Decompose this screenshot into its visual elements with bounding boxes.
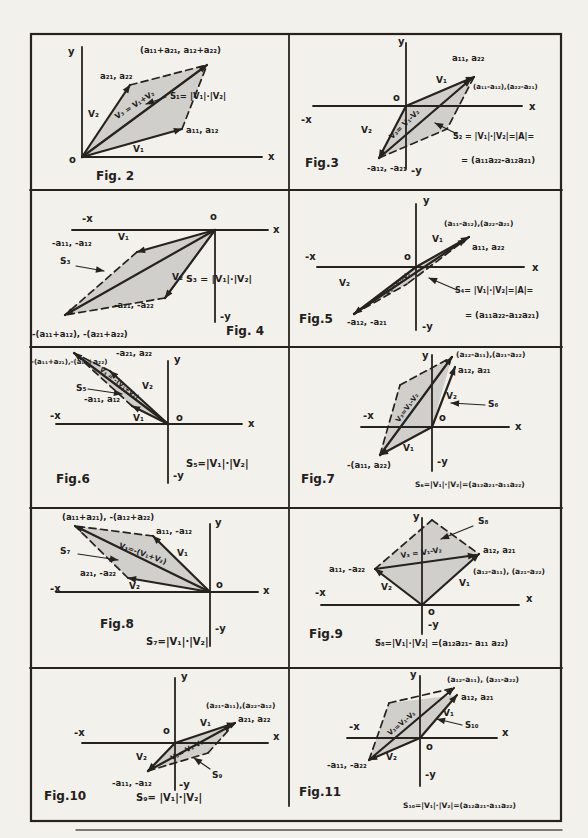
formula: = (a₁₁a₂₂-a₁₂a₂₁): [461, 155, 535, 165]
area-label: S₁₀: [465, 720, 479, 730]
axis-label: x: [263, 585, 270, 596]
axis-label: y: [398, 36, 405, 47]
vector-label: V₁: [432, 234, 443, 244]
formula: S₇=|V₁|·|V₂|: [146, 636, 209, 648]
vector-label: V₁: [436, 75, 447, 85]
point-label: a₂₁, a₂₂: [238, 714, 271, 724]
vector-label: V₂: [142, 381, 153, 391]
caption: Fig. 4: [226, 324, 264, 338]
vector-label: V₂: [446, 391, 457, 401]
point-label: -(a₁₁+a₂₁),-(a₁₂+a₂₂): [31, 358, 107, 366]
axis-label: o: [69, 154, 76, 165]
axis-label: x: [273, 731, 280, 742]
vector-label: V₁: [133, 413, 144, 423]
point-label: (a₁₁-a₁₂),(a₂₂-a₂₁): [444, 219, 513, 228]
point-label: a₂₁, -a₂₂: [80, 568, 116, 578]
vector-label: V₂: [386, 752, 397, 762]
axis-label: o: [210, 211, 217, 222]
formula: S₆=|V₁|·|V₂|=(a₁₂a₂₁-a₁₁a₂₂): [415, 480, 525, 489]
axis-label: o: [163, 725, 170, 736]
point-label: -a₁₁, -a₁₂: [112, 778, 152, 788]
caption: Fig.3: [305, 156, 339, 170]
axis-label: -x: [74, 727, 85, 738]
axis-label: -y: [428, 619, 439, 630]
axis-label: y: [410, 669, 417, 680]
figure-page-canvas: yxo(a₁₁+a₂₁, a₁₂+a₂₂)a₂₁, a₂₂V₂V₃ = V₁+V…: [0, 0, 588, 838]
point-label: a₁₁, a₂₂: [452, 53, 485, 63]
axis-label: -y: [179, 779, 190, 790]
axis-label: -y: [422, 321, 433, 332]
axis-label: y: [413, 511, 420, 522]
axis-label: x: [273, 224, 280, 235]
caption: Fig.10: [44, 789, 86, 803]
annotation-arrow: [429, 278, 457, 290]
fig-9: yx-x-yoS₈V₃ = V₁-V₂a₁₂, a₂₁(a₁₂-a₁₁), (a…: [309, 511, 545, 648]
axis-label: o: [426, 741, 433, 752]
vector-label: V₁: [200, 718, 211, 728]
fig-11: yx-x-yo(a₁₂-a₁₁), (a₂₁-a₂₂)a₁₂, a₂₁V₁V₃=…: [299, 669, 519, 810]
point-label: a₁₂, a₂₁: [458, 365, 491, 375]
formula: S₅=|V₁|·|V₂|: [186, 458, 249, 470]
formula: = (a₁₁a₂₂-a₁₂a₂₁): [465, 310, 539, 320]
axis-label: o: [176, 412, 183, 423]
fig-6: yx-x-yo-(a₁₁+a₂₁),-(a₁₂+a₂₂)-a₂₁, a₂₂V₂V…: [31, 348, 255, 486]
axis-label: x: [529, 101, 536, 112]
caption: Fig.8: [100, 617, 134, 631]
point-label: a₁₁, -a₂₂: [329, 564, 365, 574]
axis-label: y: [422, 350, 429, 361]
point-label: (a₁₁+a₂₁, a₁₂+a₂₂): [140, 45, 221, 55]
point-label: (a₁₂-a₁₁), (a₂₁-a₂₂): [447, 675, 519, 684]
point-label: -a₁₂, -a₂₁: [367, 163, 407, 173]
formula: S₉= |V₁|·|V₂|: [136, 792, 202, 804]
caption: Fig.6: [56, 472, 90, 486]
axis-label: x: [515, 421, 522, 432]
point-label: -(a₁₁, a₂₂): [347, 460, 391, 470]
formula: S₂ = |V₁|·|V₂|=|A|=: [453, 132, 534, 141]
axis-label: x: [532, 262, 539, 273]
point-label: (a₂₁-a₁₁),(a₂₂-a₁₂): [206, 701, 275, 710]
axis-label: o: [439, 412, 446, 423]
axis-label: -y: [411, 165, 422, 176]
annotation-arrow: [437, 719, 462, 725]
point-label: -a₁₁, a₁₂: [84, 394, 120, 404]
axis-label: x: [502, 727, 509, 738]
vector-label: V₁: [459, 578, 470, 588]
point-label: (a₁₁-a₁₂),(a₂₂-a₂₁): [473, 83, 538, 91]
point-label: a₁₁, a₂₂: [472, 242, 505, 252]
vector-label: V₂: [88, 109, 99, 119]
area-label: S₅: [76, 383, 86, 393]
area-label: S₉: [212, 770, 222, 780]
annotation-arrow: [76, 266, 104, 271]
axis-label: x: [268, 151, 275, 162]
axis-label: -y: [173, 470, 184, 481]
point-label: -(a₁₁+a₁₂), -(a₂₁+a₂₂): [32, 329, 128, 339]
formula: S₃ = |V₁|·|V₂|: [186, 273, 252, 284]
caption: Fig.5: [299, 312, 333, 326]
axis-label: y: [181, 671, 188, 682]
axis-label: y: [68, 46, 75, 57]
point-label: -a₂₁, a₂₂: [116, 348, 152, 358]
axis-label: -x: [315, 587, 326, 598]
point-label: a₁₁, a₁₂: [186, 125, 219, 135]
axis-label: -y: [220, 311, 231, 322]
point-label: (a₁₁+a₂₁), -(a₁₂+a₂₂): [62, 512, 154, 522]
axis-label: o: [404, 251, 411, 262]
axis-label: y: [174, 354, 181, 365]
annotation-arrow: [451, 403, 485, 405]
point-label: a₁₁, -a₁₂: [156, 526, 192, 536]
scanned-figure-sheet: yxo(a₁₁+a₂₁, a₁₂+a₂₂)a₂₁, a₂₂V₂V₃ = V₁+V…: [0, 0, 588, 838]
axis-label: o: [428, 606, 435, 617]
axis-label: -y: [215, 623, 226, 634]
caption: Fig.7: [301, 472, 335, 486]
axis-label: -x: [82, 213, 93, 224]
fig-8: yx-x-yo(a₁₁+a₂₁), -(a₁₂+a₂₂)a₁₁, -a₁₂V₁V…: [50, 512, 270, 648]
vector-label: V₁: [133, 144, 144, 154]
formula: S₁₀=|V₁|·|V₂|=(a₁₂a₂₁-a₁₁a₂₂): [403, 801, 516, 810]
fig-2: yxo(a₁₁+a₂₁, a₁₂+a₂₂)a₂₁, a₂₂V₂V₃ = V₁+V…: [68, 45, 275, 183]
vector-label: V₂: [339, 278, 350, 288]
annotation-arrow: [194, 758, 210, 769]
caption: Fig. 2: [96, 169, 134, 183]
fig-4: -xxo-yV₁-a₁₁, -a₁₂S₃V₂-a₂₁, -a₂₂-(a₁₁+a₁…: [32, 211, 280, 339]
vector-label: V₁: [403, 443, 414, 453]
vector-label: V₁: [177, 548, 188, 558]
